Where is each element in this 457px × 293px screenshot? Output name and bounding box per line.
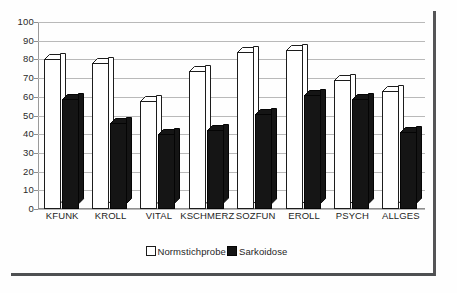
bar-top-face bbox=[304, 90, 321, 95]
y-axis-tick-label: 70 bbox=[23, 73, 34, 83]
bar-front-face bbox=[92, 63, 109, 209]
bar-sarkoidose-eroll bbox=[304, 95, 321, 209]
bar-side-face bbox=[321, 95, 326, 209]
x-axis-labels: KFUNKKROLLVITALKSCHMERZSOZFUNEROLLPSYCHA… bbox=[38, 210, 425, 224]
y-axis-tick bbox=[34, 134, 38, 135]
bar-front-face bbox=[286, 50, 303, 209]
chart-legend: NormstichprobeSarkoidose bbox=[0, 243, 433, 259]
bar-group bbox=[92, 22, 127, 209]
bar-top-face bbox=[255, 109, 272, 114]
plot-area bbox=[38, 22, 425, 209]
y-axis-tick-label: 90 bbox=[23, 36, 34, 46]
bar-group bbox=[237, 22, 272, 209]
bar-side-face bbox=[417, 132, 422, 209]
bar-side-face bbox=[272, 114, 277, 209]
y-axis-tick-label: 80 bbox=[23, 54, 34, 64]
bar-side-face bbox=[175, 134, 180, 209]
bar-top-face bbox=[92, 58, 109, 63]
bar-sarkoidose-kfunk bbox=[62, 99, 79, 209]
bar-front-face bbox=[62, 99, 79, 209]
y-axis-tick-label: 20 bbox=[23, 167, 34, 177]
bar-side-face bbox=[79, 99, 84, 209]
bar-front-face bbox=[304, 95, 321, 209]
bar-front-face bbox=[382, 91, 399, 209]
bar-normstichprobe-kschmerz bbox=[189, 71, 206, 209]
y-axis-tick bbox=[34, 41, 38, 42]
chart-figure: 1009080706050403020100 KFUNKKROLLVITALKS… bbox=[0, 0, 457, 293]
bar-front-face bbox=[255, 114, 272, 209]
bar-top-face bbox=[140, 96, 157, 101]
frame-right-rule bbox=[433, 11, 436, 276]
bar-top-face bbox=[400, 127, 417, 132]
legend-entry: Normstichprobe bbox=[146, 246, 226, 257]
bar-group bbox=[286, 22, 321, 209]
bar-top-face bbox=[334, 75, 351, 80]
bar-side-face bbox=[127, 123, 132, 209]
bar-normstichprobe-eroll bbox=[286, 50, 303, 209]
y-axis-tick bbox=[34, 116, 38, 117]
y-axis-tick bbox=[34, 78, 38, 79]
x-axis-tick-label: ALLGES bbox=[373, 210, 429, 221]
y-axis-tick bbox=[34, 190, 38, 191]
frame-bottom-rule bbox=[11, 273, 435, 276]
bar-front-face bbox=[158, 134, 175, 209]
y-axis-tick-label: 30 bbox=[23, 148, 34, 158]
y-axis-labels: 1009080706050403020100 bbox=[10, 22, 34, 209]
y-axis-tick bbox=[34, 153, 38, 154]
bar-side-face bbox=[224, 130, 229, 209]
bar-normstichprobe-allges bbox=[382, 91, 399, 209]
bar-top-face bbox=[62, 94, 79, 99]
bar-front-face bbox=[352, 99, 369, 209]
bar-sarkoidose-vital bbox=[158, 134, 175, 209]
bar-sarkoidose-kroll bbox=[110, 123, 127, 209]
legend-label: Normstichprobe bbox=[158, 246, 226, 257]
y-axis-tick bbox=[34, 59, 38, 60]
bar-normstichprobe-kfunk bbox=[44, 59, 61, 209]
bar-top-face bbox=[44, 54, 61, 59]
bar-group bbox=[189, 22, 224, 209]
legend-swatch-dark bbox=[227, 246, 237, 256]
y-axis-tick bbox=[34, 97, 38, 98]
bar-top-face bbox=[352, 94, 369, 99]
bar-front-face bbox=[140, 101, 157, 209]
bar-normstichprobe-vital bbox=[140, 101, 157, 209]
bar-front-face bbox=[334, 80, 351, 209]
bar-group bbox=[140, 22, 175, 209]
bar-normstichprobe-sozfun bbox=[237, 52, 254, 209]
y-axis-tick-label: 100 bbox=[18, 17, 34, 27]
bar-front-face bbox=[207, 130, 224, 209]
bar-top-face bbox=[110, 118, 127, 123]
y-axis-tick-label: 10 bbox=[23, 185, 34, 195]
y-axis-tick bbox=[34, 22, 38, 23]
bar-top-face bbox=[207, 125, 224, 130]
bar-group bbox=[334, 22, 369, 209]
bar-top-face bbox=[189, 66, 206, 71]
bar-sarkoidose-allges bbox=[400, 132, 417, 209]
bar-top-face bbox=[382, 86, 399, 91]
bar-top-face bbox=[237, 47, 254, 52]
y-axis-tick-label: 50 bbox=[23, 111, 34, 121]
bar-group bbox=[382, 22, 417, 209]
bar-sarkoidose-sozfun bbox=[255, 114, 272, 209]
y-axis-tick bbox=[34, 172, 38, 173]
bar-front-face bbox=[110, 123, 127, 209]
bar-group bbox=[44, 22, 79, 209]
bar-top-face bbox=[158, 129, 175, 134]
bar-front-face bbox=[189, 71, 206, 209]
bar-sarkoidose-psych bbox=[352, 99, 369, 209]
bar-normstichprobe-kroll bbox=[92, 63, 109, 209]
bar-front-face bbox=[237, 52, 254, 209]
y-axis-tick-label: 40 bbox=[23, 129, 34, 139]
legend-entry: Sarkoidose bbox=[227, 246, 288, 257]
bar-sarkoidose-kschmerz bbox=[207, 130, 224, 209]
bar-front-face bbox=[400, 132, 417, 209]
legend-label: Sarkoidose bbox=[239, 246, 288, 257]
bar-normstichprobe-psych bbox=[334, 80, 351, 209]
bar-top-face bbox=[286, 45, 303, 50]
bar-front-face bbox=[44, 59, 61, 209]
bar-side-face bbox=[369, 99, 374, 209]
legend-swatch-light bbox=[146, 246, 156, 256]
y-axis-tick-label: 60 bbox=[23, 92, 34, 102]
